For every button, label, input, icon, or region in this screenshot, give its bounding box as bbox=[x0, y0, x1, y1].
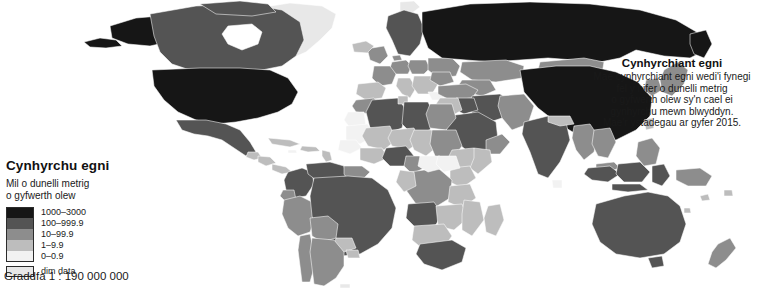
legend-swatch-10-99 bbox=[6, 229, 34, 240]
country-kazakhstan[interactable] bbox=[460, 60, 524, 82]
legend-label-1-9: 1–9.9 bbox=[41, 240, 64, 251]
country-uruguay[interactable] bbox=[346, 250, 360, 258]
description-title: Cynhyrchiant egni bbox=[574, 57, 770, 69]
description-line-3: o gyfwerth olew sy'n cael ei bbox=[574, 94, 770, 106]
legend-swatch-100-999 bbox=[6, 218, 34, 229]
country-sri-lanka[interactable] bbox=[552, 180, 562, 188]
country-jamaica[interactable] bbox=[288, 150, 297, 153]
legend-swatch-1000-3000 bbox=[6, 207, 34, 218]
legend-class-list: 1000–3000 100–999.9 10–99.9 1–9.9 0–0.9 bbox=[6, 207, 186, 262]
description-line-5: Mae'r ystadegau ar gyfer 2015. bbox=[574, 117, 770, 129]
legend-label-1000-3000: 1000–3000 bbox=[41, 207, 86, 218]
legend-item-0-0-9[interactable]: 0–0.9 bbox=[6, 251, 186, 262]
map-legend: Cynhyrchu egni Mil o dunelli metrigo gyf… bbox=[6, 158, 186, 277]
legend-subtitle: Mil o dunelli metrigo gyfwerth olew bbox=[6, 178, 126, 202]
description-line-2: fel y nifer o dunelli metrig bbox=[574, 83, 770, 95]
legend-item-10-99[interactable]: 10–99.9 bbox=[6, 229, 186, 240]
legend-swatch-0-0-9 bbox=[6, 251, 34, 262]
legend-label-10-99: 10–99.9 bbox=[41, 229, 74, 240]
legend-title: Cynhyrchu egni bbox=[6, 158, 186, 173]
map-scale-text: Graddfa 1 : 190 000 000 bbox=[4, 270, 129, 282]
country-denmark[interactable] bbox=[392, 55, 402, 61]
region-falklands[interactable] bbox=[340, 284, 350, 288]
description-panel: Cynhyrchiant egni Mae cynhyrchiant egni … bbox=[574, 57, 770, 129]
description-body: Mae cynhyrchiant egni wedi'i fynegi fel … bbox=[574, 71, 770, 129]
legend-label-100-999: 100–999.9 bbox=[41, 218, 84, 229]
legend-swatch-1-9 bbox=[6, 240, 34, 251]
legend-item-1-9[interactable]: 1–9.9 bbox=[6, 240, 186, 251]
legend-label-0-0-9: 0–0.9 bbox=[41, 251, 64, 262]
description-line-1: Mae cynhyrchiant egni wedi'i fynegi bbox=[574, 71, 770, 83]
energy-production-map-figure: Cynhyrchu egni Mil o dunelli metrigo gyf… bbox=[0, 0, 774, 290]
legend-item-1000-3000[interactable]: 1000–3000 bbox=[6, 207, 186, 218]
description-line-4: gynhyrchu mewn blwyddyn. bbox=[574, 106, 770, 118]
legend-item-100-999[interactable]: 100–999.9 bbox=[6, 218, 186, 229]
